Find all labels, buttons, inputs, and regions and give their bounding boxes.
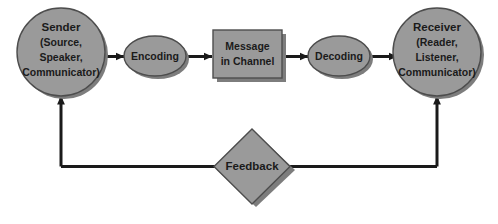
sender-label-line-2: Speaker,	[39, 51, 82, 63]
node-message[interactable]: Message in Channel	[213, 30, 286, 82]
receiver-label-line-1: (Reader,	[416, 36, 458, 48]
node-encoding[interactable]: Encoding	[124, 36, 189, 79]
node-receiver[interactable]: Receiver (Reader, Listener, Communicator…	[393, 8, 484, 99]
decoding-label: Decoding	[315, 50, 363, 62]
diagram-svg: Sender (Source, Speaker, Communicator) E…	[0, 0, 498, 224]
receiver-label-line-0: Receiver	[413, 21, 461, 33]
message-label-line-1: in Channel	[221, 55, 275, 67]
receiver-label-line-2: Listener,	[415, 51, 458, 63]
receiver-label-line-3: Communicator)	[398, 66, 476, 78]
encoding-label: Encoding	[131, 50, 179, 62]
node-decoding[interactable]: Decoding	[308, 36, 373, 79]
sender-label-line-1: (Source,	[40, 36, 82, 48]
node-feedback[interactable]: Feedback	[214, 129, 295, 207]
edge-receiver-to-feedback	[290, 96, 437, 167]
diagram-canvas: Sender (Source, Speaker, Communicator) E…	[0, 0, 498, 224]
sender-label-line-3: Communicator)	[22, 66, 100, 78]
feedback-label: Feedback	[225, 160, 279, 172]
message-label-line-0: Message	[225, 40, 270, 52]
node-sender[interactable]: Sender (Source, Speaker, Communicator)	[17, 8, 108, 99]
sender-label-line-0: Sender	[42, 21, 82, 33]
edge-feedback-to-sender	[61, 96, 215, 167]
